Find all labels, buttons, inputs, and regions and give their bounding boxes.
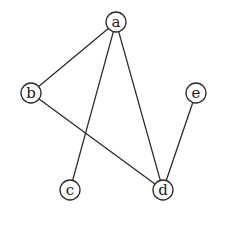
- graph-diagram: abecd: [0, 0, 226, 229]
- node-label: c: [66, 181, 74, 199]
- edge-e-d: [166, 102, 193, 180]
- graph-svg: abecd: [0, 0, 226, 229]
- node-b: b: [21, 83, 41, 103]
- edge-a-d: [119, 32, 161, 181]
- node-c: c: [60, 180, 80, 200]
- edges-group: [39, 28, 193, 184]
- node-label: e: [192, 84, 201, 102]
- node-label: b: [26, 84, 36, 102]
- node-label: a: [112, 13, 121, 31]
- edge-a-b: [39, 28, 109, 86]
- edge-b-d: [39, 99, 155, 184]
- node-d: d: [153, 180, 173, 200]
- node-a: a: [106, 12, 126, 32]
- node-e: e: [186, 83, 206, 103]
- node-label: d: [158, 181, 168, 199]
